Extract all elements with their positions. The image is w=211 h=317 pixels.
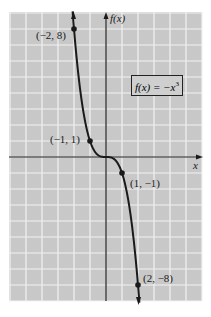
point-neg2-8 — [71, 26, 77, 32]
point-2-neg8 — [135, 282, 141, 288]
point-neg1-1 — [87, 138, 93, 144]
point-1-neg1 — [119, 170, 125, 176]
x-axis-label: x — [193, 160, 198, 171]
function-formula-box: f(x) = −x3 — [131, 75, 183, 96]
point-label-2-neg8: (2, −8) — [143, 273, 173, 284]
y-axis-label: f(x) — [110, 13, 125, 24]
formula-text: f(x) = −x — [135, 81, 176, 93]
point-label-neg2-8: (−2, 8) — [36, 30, 66, 41]
point-label-neg1-1: (−1, 1) — [50, 134, 80, 145]
chart-canvas — [0, 0, 211, 317]
point-label-1-neg1: (1, −1) — [130, 178, 160, 189]
formula-exponent: 3 — [176, 80, 180, 88]
